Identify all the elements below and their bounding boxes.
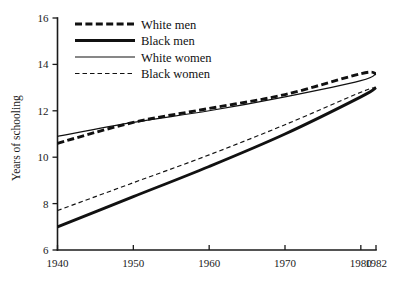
y-axis-label-text: Years of schooling: [10, 95, 23, 181]
y-tick-label: 10: [38, 151, 50, 163]
legend-label-black-women: Black women: [141, 67, 211, 81]
x-tick-label: 1960: [198, 257, 221, 269]
y-tick-label: 14: [38, 58, 50, 70]
y-tick-label: 6: [43, 244, 49, 256]
y-tick-label: 16: [38, 12, 50, 24]
line-chart: Years of schooling 6810121416 1940195019…: [0, 0, 397, 281]
x-axis: 194019501960197019801982: [47, 245, 388, 269]
series-line-white-women: [58, 74, 377, 137]
series-line-black-men: [58, 88, 377, 227]
x-tick-label: 1982: [365, 257, 387, 269]
y-tick-label: 8: [43, 198, 49, 210]
y-tick-label: 12: [38, 105, 49, 117]
series-line-black-women: [58, 88, 377, 211]
y-axis: 6810121416: [38, 12, 58, 256]
data-series-group: [58, 72, 377, 227]
x-tick-label: 1970: [274, 257, 297, 269]
legend-label-white-men: White men: [141, 18, 197, 32]
x-tick-label: 1950: [122, 257, 145, 269]
chart-legend: White menBlack menWhite womenBlack women: [75, 18, 212, 82]
legend-label-white-women: White women: [141, 51, 212, 65]
x-tick-label: 1940: [47, 257, 70, 269]
chart-figure: Years of schooling 6810121416 1940195019…: [0, 0, 397, 281]
x-tick-group: 194019501960197019801982: [47, 245, 388, 269]
y-axis-label: Years of schooling: [10, 95, 23, 181]
y-tick-group: 6810121416: [38, 12, 58, 256]
legend-label-black-men: Black men: [141, 34, 196, 48]
series-line-white-men: [58, 72, 377, 143]
